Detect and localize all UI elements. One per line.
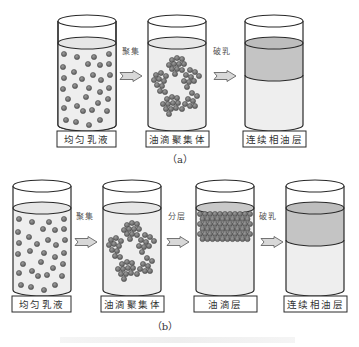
beaker-continuous-oil-layer	[245, 15, 303, 131]
label-box-continuous-oil-layer: 连续相油层	[284, 296, 347, 312]
label-box-continuous-oil-layer: 连续相油层	[243, 131, 306, 147]
step-label-aggregation: 聚集	[122, 46, 140, 56]
step-label-demulsification: 破乳	[259, 211, 277, 221]
panel-b-sublabel: （b）	[152, 321, 178, 332]
beaker-uniform-emulsion	[58, 15, 116, 131]
beaker-droplet-aggregates	[103, 180, 161, 296]
arrow-right-icon	[75, 237, 97, 248]
panel-b: 均匀乳液 聚集	[12, 180, 347, 332]
label-uniform-emulsion: 均匀乳液	[19, 299, 65, 310]
label-box-droplet-aggregates: 油滴聚集体	[101, 296, 164, 312]
step-label-demulsification: 破乳	[213, 46, 231, 56]
label-box-droplet-layer: 油滴层	[194, 296, 257, 312]
label-continuous-oil-layer: 连续相油层	[246, 134, 304, 145]
step-label-creaming: 分层	[168, 212, 186, 221]
arrow-right-icon	[120, 71, 142, 82]
beaker-uniform-emulsion	[13, 180, 71, 296]
figure-caption-faded	[60, 337, 295, 343]
label-droplet-layer: 油滴层	[208, 299, 243, 310]
panel-a-sublabel: （a）	[167, 154, 193, 165]
arrow-right-icon	[261, 237, 283, 248]
panel-a: 均匀乳液 聚集	[57, 15, 306, 165]
label-droplet-aggregates: 油滴聚集体	[104, 299, 162, 310]
beaker-continuous-oil-layer	[286, 180, 344, 296]
label-droplet-aggregates: 油滴聚集体	[149, 134, 207, 145]
arrow-right-icon	[214, 71, 236, 82]
step-label-aggregation: 聚集	[76, 211, 94, 221]
beaker-droplet-aggregates	[148, 15, 206, 131]
label-uniform-emulsion: 均匀乳液	[64, 134, 110, 145]
label-box-droplet-aggregates: 油滴聚集体	[146, 131, 209, 147]
label-box-uniform-emulsion: 均匀乳液	[57, 131, 116, 147]
arrow-right-icon	[167, 237, 189, 248]
label-box-uniform-emulsion: 均匀乳液	[12, 296, 71, 312]
emulsion-breaking-diagram: 均匀乳液 聚集	[0, 0, 359, 347]
beaker-droplet-layer	[196, 180, 254, 296]
label-continuous-oil-layer: 连续相油层	[287, 299, 345, 310]
